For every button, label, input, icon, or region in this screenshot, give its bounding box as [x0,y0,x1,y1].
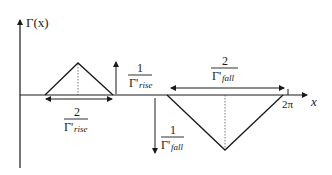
svg-text:Γ': Γ' [212,69,221,83]
fall-width-label: 2 Γ' fall [211,54,238,83]
svg-text:1: 1 [137,61,143,75]
svg-text:Γ': Γ' [64,120,73,134]
rise-height-label: 1 Γ' rise [128,61,153,90]
rise-width-label: 2 Γ' rise [64,105,88,134]
svg-text:1: 1 [170,123,176,137]
svg-text:Γ': Γ' [161,138,170,152]
svg-text:2: 2 [74,105,80,119]
fall-height-label: 1 Γ' fall [161,123,184,152]
svg-text:rise: rise [74,124,88,134]
gamma-function-diagram: Γ(x) x 2π 1 Γ' rise 2 Γ' rise 2 Γ' fall … [0,0,332,175]
rise-triangle [45,63,113,95]
svg-text:2: 2 [222,54,228,68]
svg-text:fall: fall [222,73,235,83]
svg-text:rise: rise [139,80,153,90]
y-axis-label: Γ(x) [26,15,49,30]
x-axis-label: x [310,94,317,109]
svg-text:Γ': Γ' [129,76,138,90]
x-tick-label-2pi: 2π [282,98,294,110]
svg-text:fall: fall [171,142,184,152]
